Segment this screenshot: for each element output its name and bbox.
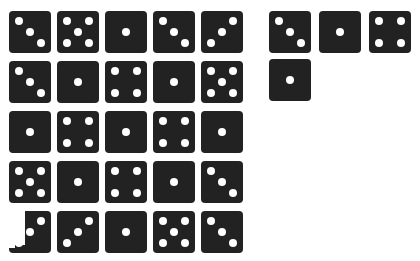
pip-icon bbox=[218, 128, 226, 136]
pip-icon bbox=[375, 39, 383, 47]
pip-icon bbox=[122, 28, 130, 36]
die-5[interactable] bbox=[9, 161, 51, 203]
pip-icon bbox=[229, 67, 237, 75]
pip-icon bbox=[111, 89, 119, 97]
pip-icon bbox=[170, 78, 178, 86]
pip-icon bbox=[74, 178, 82, 186]
pip-icon bbox=[133, 89, 141, 97]
pip-icon bbox=[207, 39, 215, 47]
pip-icon bbox=[181, 217, 189, 225]
pip-icon bbox=[122, 128, 130, 136]
pip-icon bbox=[26, 128, 34, 136]
pip-icon bbox=[63, 117, 71, 125]
die-3[interactable] bbox=[9, 211, 51, 253]
die-5[interactable] bbox=[153, 211, 195, 253]
die-4[interactable] bbox=[153, 111, 195, 153]
pip-icon bbox=[181, 239, 189, 247]
die-1[interactable] bbox=[319, 11, 361, 53]
die-4[interactable] bbox=[369, 11, 411, 53]
die-1[interactable] bbox=[9, 111, 51, 153]
pip-icon bbox=[229, 239, 237, 247]
pip-icon bbox=[159, 139, 167, 147]
die-1[interactable] bbox=[153, 61, 195, 103]
die-3[interactable] bbox=[57, 211, 99, 253]
die-3[interactable] bbox=[201, 161, 243, 203]
pip-icon bbox=[26, 28, 34, 36]
pip-icon bbox=[111, 67, 119, 75]
pip-icon bbox=[85, 17, 93, 25]
die-1[interactable] bbox=[57, 61, 99, 103]
die-3[interactable] bbox=[269, 11, 311, 53]
pip-icon bbox=[85, 39, 93, 47]
pip-icon bbox=[159, 17, 167, 25]
pip-icon bbox=[26, 78, 34, 86]
pip-icon bbox=[85, 117, 93, 125]
die-4[interactable] bbox=[57, 111, 99, 153]
pip-icon bbox=[170, 178, 178, 186]
pip-icon bbox=[37, 189, 45, 197]
pip-icon bbox=[229, 89, 237, 97]
pip-icon bbox=[159, 217, 167, 225]
pip-icon bbox=[15, 167, 23, 175]
pip-icon bbox=[375, 17, 383, 25]
pip-icon bbox=[207, 67, 215, 75]
pip-icon bbox=[218, 28, 226, 36]
pip-icon bbox=[37, 217, 45, 225]
pip-icon bbox=[74, 228, 82, 236]
pip-icon bbox=[63, 17, 71, 25]
pip-icon bbox=[207, 217, 215, 225]
die-1[interactable] bbox=[269, 59, 311, 101]
pip-icon bbox=[26, 178, 34, 186]
pip-icon bbox=[397, 17, 405, 25]
pip-icon bbox=[229, 189, 237, 197]
die-1[interactable] bbox=[153, 161, 195, 203]
pip-icon bbox=[159, 117, 167, 125]
die-5[interactable] bbox=[201, 61, 243, 103]
pip-icon bbox=[170, 228, 178, 236]
pip-icon bbox=[207, 89, 215, 97]
pip-icon bbox=[229, 17, 237, 25]
die-1[interactable] bbox=[201, 111, 243, 153]
pip-icon bbox=[15, 17, 23, 25]
die-3[interactable] bbox=[153, 11, 195, 53]
pip-icon bbox=[286, 76, 294, 84]
pip-icon bbox=[397, 39, 405, 47]
pip-icon bbox=[63, 239, 71, 247]
pip-icon bbox=[133, 189, 141, 197]
die-3[interactable] bbox=[201, 211, 243, 253]
die-1[interactable] bbox=[57, 161, 99, 203]
die-3[interactable] bbox=[201, 11, 243, 53]
pip-icon bbox=[37, 167, 45, 175]
die-4[interactable] bbox=[105, 61, 147, 103]
cursor-marker-icon bbox=[9, 211, 25, 245]
pip-icon bbox=[111, 167, 119, 175]
pip-icon bbox=[336, 28, 344, 36]
die-1[interactable] bbox=[105, 211, 147, 253]
pip-icon bbox=[26, 228, 34, 236]
pip-icon bbox=[122, 228, 130, 236]
pip-icon bbox=[181, 39, 189, 47]
die-5[interactable] bbox=[57, 11, 99, 53]
die-3[interactable] bbox=[9, 61, 51, 103]
die-3[interactable] bbox=[9, 11, 51, 53]
pip-icon bbox=[218, 78, 226, 86]
pip-icon bbox=[37, 89, 45, 97]
pip-icon bbox=[15, 67, 23, 75]
die-1[interactable] bbox=[105, 11, 147, 53]
pip-icon bbox=[85, 139, 93, 147]
pip-icon bbox=[275, 17, 283, 25]
pip-icon bbox=[181, 117, 189, 125]
pip-icon bbox=[170, 28, 178, 36]
pip-icon bbox=[111, 189, 119, 197]
die-1[interactable] bbox=[105, 111, 147, 153]
pip-icon bbox=[74, 28, 82, 36]
pip-icon bbox=[74, 78, 82, 86]
pip-icon bbox=[218, 178, 226, 186]
pip-icon bbox=[133, 67, 141, 75]
pip-icon bbox=[207, 167, 215, 175]
pip-icon bbox=[218, 228, 226, 236]
pip-icon bbox=[15, 189, 23, 197]
pip-icon bbox=[37, 39, 45, 47]
pip-icon bbox=[133, 167, 141, 175]
die-4[interactable] bbox=[105, 161, 147, 203]
